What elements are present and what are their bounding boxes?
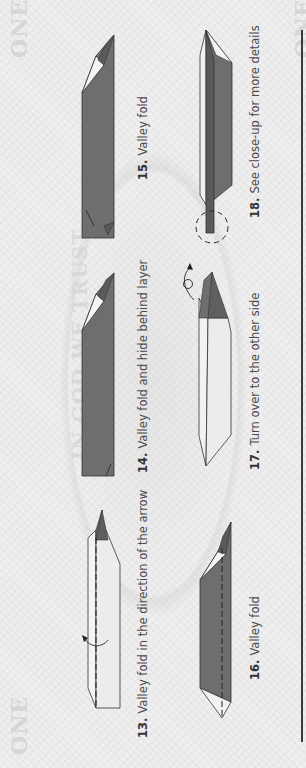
- step-17-number: 17.: [248, 446, 262, 470]
- step-15-diagram: [78, 30, 118, 245]
- watermark-one-bottom: ONE: [6, 696, 32, 755]
- step-18-number: 18.: [248, 194, 262, 218]
- step-14-label: 14. Valley fold and hide behind layer: [136, 260, 150, 473]
- step-16-number: 16.: [248, 656, 262, 680]
- step-13-label: 13. Valley fold in the direction of the …: [136, 490, 150, 738]
- step-15-text: Valley fold: [136, 96, 150, 156]
- step-13-number: 13.: [136, 714, 150, 738]
- step-18-text: See close-up for more details: [248, 25, 262, 193]
- watermark-one-top-right: ONE: [290, 0, 306, 58]
- watermark-one-top: ONE: [6, 0, 32, 58]
- step-17-text: Turn over to the other side: [248, 293, 262, 446]
- step-13-text: Valley fold in the direction of the arro…: [136, 490, 150, 714]
- step-18-label: 18. See close-up for more details: [248, 25, 262, 218]
- step-14-number: 14.: [136, 449, 150, 473]
- step-17-diagram: [178, 260, 238, 490]
- step-14-text: Valley fold and hide behind layer: [136, 260, 150, 449]
- step-14-diagram: [78, 268, 118, 483]
- turn-over-arrow-icon: [184, 263, 195, 300]
- step-16-diagram: [196, 518, 236, 738]
- step-16-label: 16. Valley fold: [248, 596, 262, 680]
- step-16-text: Valley fold: [248, 596, 262, 656]
- page-edge-rule: [301, 30, 303, 742]
- step-18-diagram: [190, 25, 240, 250]
- step-13-diagram: [82, 508, 127, 723]
- step-15-label: 15. Valley fold: [136, 96, 150, 180]
- step-15-number: 15.: [136, 156, 150, 180]
- step-17-label: 17. Turn over to the other side: [248, 293, 262, 470]
